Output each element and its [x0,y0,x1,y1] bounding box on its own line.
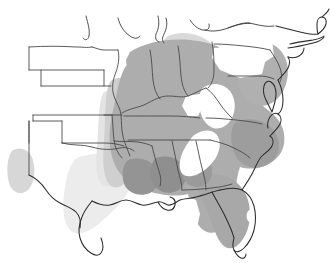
lake-ontario-shoreline [190,20,209,30]
coast-cape-cod [317,17,326,34]
coast-cape-cod-hook [322,9,329,17]
coast-new-england [276,26,318,34]
map-canvas: Outline map of the central and eastern U… [0,0,330,263]
border-iowa-north [29,46,92,47]
st-lawrence-line [228,23,274,28]
lake-huron-shoreline [156,16,159,42]
coast-long-island [290,36,324,44]
lake-michigan-east-shore [118,18,140,38]
coast-new-jersey [288,48,304,58]
shade-west-texas-patch [7,148,34,193]
border-iowa-east [92,47,118,50]
range-map-figure: Outline map of the central and eastern U… [0,0,330,263]
lake-michigan-shoreline [83,16,89,40]
